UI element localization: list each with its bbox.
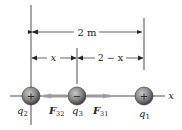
charge-diagram: 2 m x 2 − x x + − + q2 q [0, 0, 182, 130]
charge-q1: + [135, 87, 153, 105]
charge-q3: − [68, 87, 86, 105]
x-axis-label: x [168, 90, 174, 101]
q2-sign-icon: + [27, 91, 35, 102]
q1-sign-icon: + [140, 91, 148, 102]
charge-q2: + [22, 87, 40, 105]
dimension-left: x [32, 52, 77, 63]
label-q2: q2 [17, 105, 28, 118]
label-f32: F32 [48, 105, 64, 118]
dimension-right: 2 − x [78, 52, 144, 63]
label-q3: q3 [72, 105, 83, 118]
dimension-left-label: x [51, 52, 57, 63]
dimension-total: 2 m [32, 27, 143, 38]
dimension-total-label: 2 m [77, 27, 97, 38]
label-f31: F31 [92, 105, 108, 118]
q3-sign-icon: − [73, 91, 81, 102]
dimension-right-label: 2 − x [98, 52, 124, 63]
label-q1: q1 [139, 108, 150, 121]
